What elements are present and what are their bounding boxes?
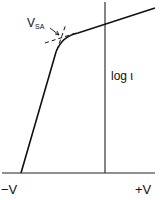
y-axis-label: log ι <box>111 69 133 83</box>
vsa-label: VSA <box>27 16 45 30</box>
iv-diagram: VSA log ι −V +V <box>0 0 162 200</box>
extrapolation-dashed-horizontal <box>45 33 76 43</box>
characteristic-curve <box>21 8 155 173</box>
x-axis-negative-label: −V <box>1 182 18 197</box>
x-axis-positive-label: +V <box>135 182 152 197</box>
